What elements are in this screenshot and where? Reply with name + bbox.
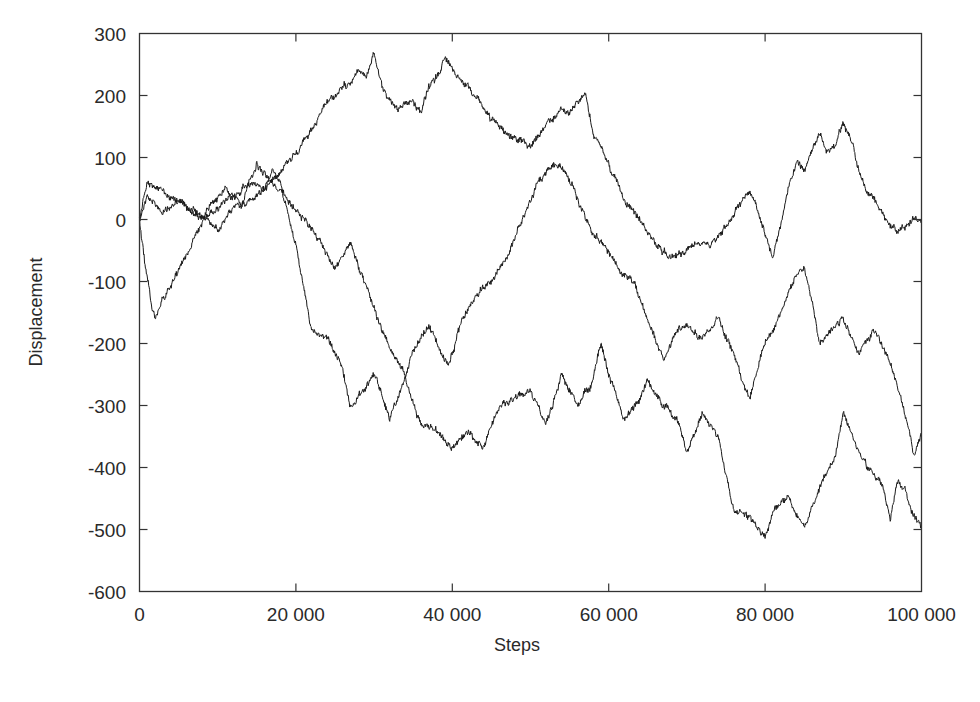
y-tick-label: -400	[88, 458, 126, 479]
y-tick-label: 100	[94, 148, 126, 169]
y-tick-label: -300	[88, 396, 126, 417]
y-tick-label: 0	[115, 210, 126, 231]
random-walk-chart: 3002001000-100-200-300-400-500-600 020 0…	[0, 0, 980, 702]
y-axis-title: Displacement	[26, 257, 46, 366]
y-tick-label: 300	[94, 24, 126, 45]
x-axis-tick-labels: 020 00040 00060 00080 000100 000	[134, 604, 956, 625]
x-tick-label: 0	[134, 604, 145, 625]
x-axis-title: Steps	[494, 635, 540, 655]
y-axis-tick-labels: 3002001000-100-200-300-400-500-600	[88, 24, 126, 603]
x-tick-label: 40 000	[423, 604, 481, 625]
x-tick-label: 20 000	[267, 604, 325, 625]
series-line-2	[140, 161, 922, 455]
y-tick-label: -100	[88, 272, 126, 293]
series-layer	[140, 52, 922, 538]
series-line-1	[140, 52, 922, 258]
y-tick-label: 200	[94, 86, 126, 107]
x-tick-label: 100 000	[887, 604, 956, 625]
y-tick-label: -200	[88, 334, 126, 355]
y-tick-label: -500	[88, 520, 126, 541]
x-tick-label: 60 000	[580, 604, 638, 625]
series-line-3	[140, 169, 922, 539]
y-tick-label: -600	[88, 582, 126, 603]
axis-ticks	[140, 34, 922, 592]
plot-frame	[140, 34, 922, 592]
x-tick-label: 80 000	[736, 604, 794, 625]
